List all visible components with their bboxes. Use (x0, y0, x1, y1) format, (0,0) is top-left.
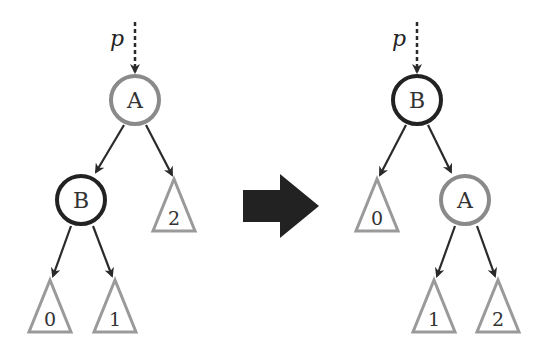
node-label: A (126, 88, 144, 113)
node-A-after: A (441, 176, 489, 224)
pointer-p-before: p (110, 22, 135, 72)
node-label: B (73, 188, 89, 213)
pointer-label: p (110, 26, 124, 51)
after-tree: p B A 0 1 2 (356, 22, 519, 332)
edge-B-1 (93, 226, 112, 276)
edge-A-2 (146, 125, 172, 175)
tree-rotation-diagram: p A B 0 1 2 (0, 0, 542, 357)
edge-A-1 (437, 226, 455, 276)
edge-B-0 (380, 125, 406, 175)
subtree-1-before: 1 (94, 280, 136, 332)
node-B-before: B (57, 176, 105, 224)
subtree-label: 1 (428, 308, 440, 330)
subtree-label: 2 (492, 308, 504, 330)
rotation-arrow-icon (243, 174, 319, 238)
before-tree: p A B 0 1 2 (29, 22, 195, 332)
node-label: A (456, 188, 474, 213)
node-B-after: B (393, 76, 441, 124)
subtree-label: 1 (109, 308, 121, 330)
pointer-p-after: p (392, 22, 417, 72)
subtree-label: 0 (44, 308, 56, 330)
pointer-label: p (392, 26, 406, 51)
edge-B-A (428, 125, 451, 172)
subtree-0-before: 0 (29, 280, 71, 332)
node-A-before: A (111, 76, 159, 124)
node-label: B (409, 88, 425, 113)
subtree-2-before: 2 (153, 179, 195, 231)
subtree-label: 0 (371, 207, 383, 229)
edge-A-B (96, 125, 124, 172)
subtree-1-after: 1 (413, 280, 455, 332)
edge-A-2 (477, 226, 495, 276)
subtree-label: 2 (168, 207, 180, 229)
subtree-0-after: 0 (356, 179, 398, 231)
edge-B-0 (53, 226, 71, 276)
subtree-2-after: 2 (477, 280, 519, 332)
